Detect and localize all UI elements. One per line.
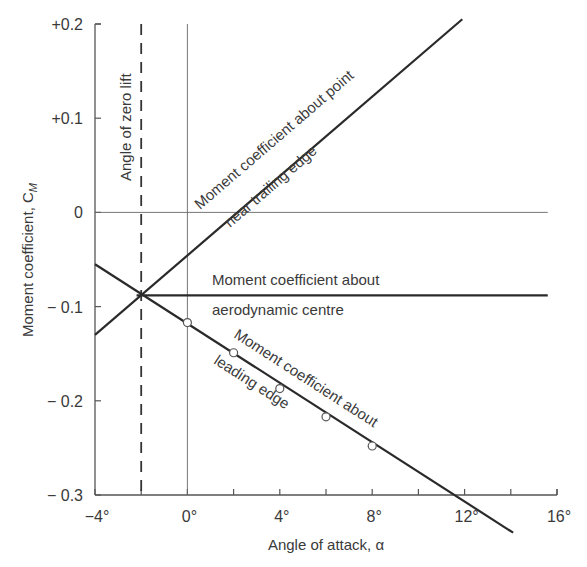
- aerodynamic-centre-label-line1: Moment coefficient about: [212, 271, 380, 288]
- x-tick-label: 8°: [367, 508, 382, 525]
- y-axis-title: Moment coefficient, CM: [19, 182, 39, 337]
- measured-point: [322, 413, 330, 421]
- zero-lift-label: Angle of zero lift: [117, 73, 134, 181]
- x-tick-label: 4°: [274, 508, 289, 525]
- y-axis-title-text: Moment coefficient, C: [19, 192, 36, 337]
- y-tick-label: − 0.1: [47, 299, 83, 316]
- y-tick-label: 0: [74, 204, 83, 221]
- y-tick-label: − 0.2: [47, 393, 83, 410]
- y-tick-label: +0.1: [51, 110, 83, 127]
- x-tick-label: 12°: [454, 508, 478, 525]
- x-tick-label: 16°: [547, 508, 571, 525]
- y-axis-tick-labels: +0.2+0.10− 0.1− 0.2− 0.3: [47, 16, 83, 504]
- measured-point: [230, 349, 238, 357]
- y-axis-ticks: [95, 24, 101, 495]
- y-axis-title-subscript: M: [27, 182, 39, 192]
- measured-point: [183, 319, 191, 327]
- y-tick-label: +0.2: [51, 16, 83, 33]
- x-tick-label: 0°: [182, 508, 197, 525]
- trailing-edge-label-line2: near trailing edge: [221, 142, 320, 230]
- y-tick-label: − 0.3: [47, 487, 83, 504]
- x-axis-ticks: [95, 489, 557, 495]
- aerodynamic-centre-label-line2: aerodynamic centre: [212, 301, 344, 318]
- moment-coefficient-chart: +0.2+0.10− 0.1− 0.2− 0.3 −4°0°4°8°12°16°…: [0, 0, 587, 567]
- x-tick-label: −4°: [85, 508, 110, 525]
- measured-point: [368, 442, 376, 450]
- x-axis-title: Angle of attack, α: [268, 536, 385, 553]
